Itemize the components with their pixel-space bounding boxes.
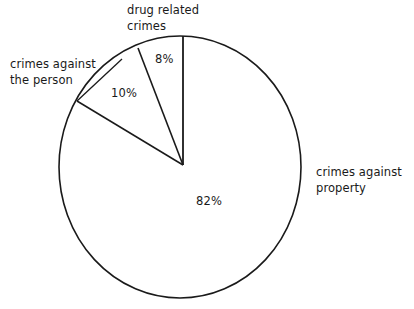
slice-label-line-2: the person: [10, 73, 73, 87]
slice-label-drug-related-crimes: drug relatedcrimes: [127, 2, 199, 34]
slice-value-drug-related-crimes: 8%: [155, 52, 174, 66]
slice-label-line-2: property: [316, 181, 366, 195]
slice-label-crimes-against-property: crimes againstproperty: [316, 164, 402, 196]
slice-label-line-1: crimes against: [10, 57, 96, 71]
slice-label-line-2: crimes: [127, 19, 166, 33]
slice-value-crimes-against-property: 82%: [196, 194, 222, 208]
pie-chart-figure: drug relatedcrimes crimes againstthe per…: [0, 0, 414, 309]
slice-label-line-1: crimes against: [316, 165, 402, 179]
slice-label-line-1: drug related: [127, 3, 199, 17]
slice-label-crimes-against-the-person: crimes againstthe person: [10, 56, 96, 88]
slice-value-crimes-against-the-person: 10%: [111, 86, 137, 100]
slice-divider-person-property: [77, 101, 183, 165]
pie-chart-graphic: [0, 0, 414, 309]
